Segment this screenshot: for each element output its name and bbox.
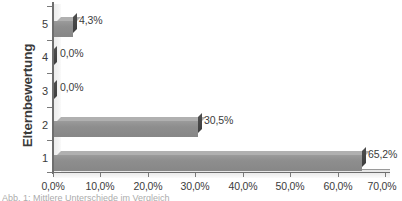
x-tick-mark xyxy=(243,173,244,177)
data-label-3: 0,0% xyxy=(60,81,84,93)
x-tick-mark xyxy=(338,173,339,177)
x-tick-mark xyxy=(148,173,149,177)
y-tick-label-group: 5 4 3 2 1 xyxy=(0,0,48,178)
data-label-4: 0,0% xyxy=(60,47,84,59)
bar-top-face xyxy=(57,117,206,121)
x-tick-mark xyxy=(100,173,101,177)
y-tick-label-3: 3 xyxy=(4,85,48,97)
y-tick-label-4: 4 xyxy=(4,51,48,63)
x-tick-mark xyxy=(385,173,386,177)
y-tick-label-5: 5 xyxy=(4,18,48,30)
bar-category-2[interactable] xyxy=(53,121,198,137)
x-tick-mark xyxy=(53,173,54,177)
y-axis-line xyxy=(52,2,54,174)
x-tick-mark xyxy=(195,173,196,177)
bar-top-face xyxy=(57,151,370,155)
y-tick-label-2: 2 xyxy=(4,119,48,131)
bar-category-5[interactable] xyxy=(53,21,73,37)
x-tick-label-70: 70,0% xyxy=(352,180,402,192)
figure-caption: Abb. 1: Mittlere Unterschiede im Verglei… xyxy=(2,193,170,201)
plot-area xyxy=(53,4,385,172)
bar-end-face xyxy=(362,147,366,167)
y-tick-label-1: 1 xyxy=(4,152,48,164)
x-tick-mark xyxy=(290,173,291,177)
data-label-5: 4,3% xyxy=(79,14,103,26)
bar-end-face xyxy=(198,113,202,133)
data-label-1: 65,2% xyxy=(368,148,397,160)
bar-top-face xyxy=(57,17,81,21)
x-axis-line xyxy=(52,172,390,173)
bar-end-face xyxy=(73,13,77,33)
bar-category-1[interactable] xyxy=(53,155,362,171)
data-label-2: 30,5% xyxy=(204,114,233,126)
